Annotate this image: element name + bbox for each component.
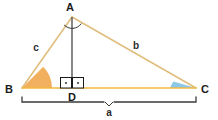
base-bracket-notch <box>105 102 113 106</box>
vertex-label-d: D <box>68 91 76 103</box>
angle-c-sector <box>170 82 196 88</box>
side-b-line <box>72 17 196 88</box>
base-measurement-bracket <box>22 97 196 102</box>
vertex-label-a: A <box>66 1 74 13</box>
right-angle-dot-right <box>77 82 79 84</box>
vertex-label-b: B <box>5 83 13 95</box>
angle-b-sector <box>22 67 52 88</box>
right-angle-dot-left <box>65 82 67 84</box>
side-label-a: a <box>106 107 112 118</box>
geometry-diagram: A B C D c b a <box>0 0 218 120</box>
side-label-c: c <box>33 42 39 53</box>
triangle-diagram-canvas: A B C D c b a <box>0 0 218 120</box>
vertex-label-c: C <box>201 83 209 95</box>
side-label-b: b <box>133 40 139 51</box>
